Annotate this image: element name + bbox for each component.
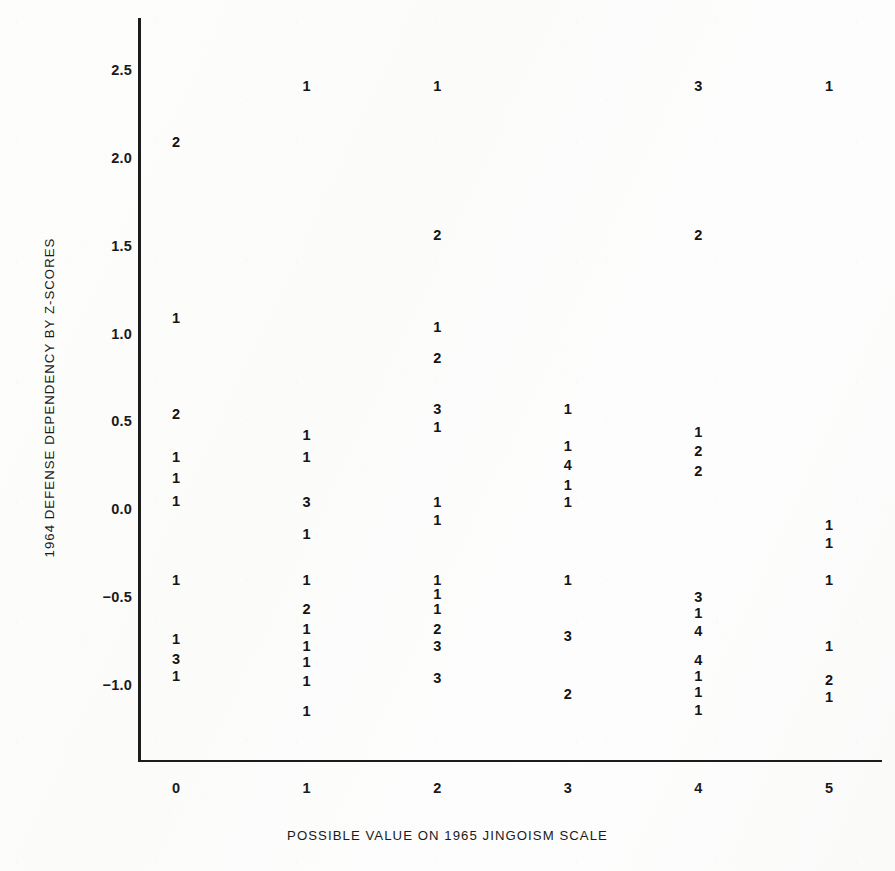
x-tick-label: 4 <box>678 780 718 796</box>
data-point-count: 1 <box>425 419 449 434</box>
data-point-count: 3 <box>556 629 580 644</box>
y-tick-label: −0.5 <box>78 589 132 605</box>
data-point-count: 3 <box>686 590 710 605</box>
y-tick-label: −1.0 <box>78 677 132 693</box>
data-point-count: 1 <box>295 527 319 542</box>
data-point-count: 2 <box>425 622 449 637</box>
y-tick-label: 0.5 <box>78 413 132 429</box>
data-point-count: 1 <box>686 669 710 684</box>
x-axis-title: POSSIBLE VALUE ON 1965 JINGOISM SCALE <box>0 828 895 843</box>
data-point-count: 1 <box>164 449 188 464</box>
data-point-count: 1 <box>295 639 319 654</box>
data-point-count: 3 <box>164 651 188 666</box>
data-point-count: 3 <box>425 402 449 417</box>
y-axis-title: 1964 DEFENSE DEPENDENCY BY Z-SCORES <box>42 163 57 633</box>
data-point-count: 1 <box>686 606 710 621</box>
x-axis-line <box>138 760 882 762</box>
data-point-count: 2 <box>556 687 580 702</box>
data-point-count: 1 <box>164 493 188 508</box>
data-point-count: 1 <box>556 439 580 454</box>
scatter-chart: 2.52.01.51.00.50.0−0.5−1.0 012345 212111… <box>0 0 895 871</box>
data-point-count: 2 <box>686 444 710 459</box>
data-point-count: 2 <box>686 463 710 478</box>
data-point-count: 1 <box>817 690 841 705</box>
data-point-count: 1 <box>295 572 319 587</box>
x-tick-label: 3 <box>548 780 588 796</box>
data-point-count: 1 <box>817 572 841 587</box>
x-tick-label: 5 <box>809 780 849 796</box>
data-point-count: 4 <box>556 458 580 473</box>
data-point-count: 1 <box>556 402 580 417</box>
data-point-count: 3 <box>425 639 449 654</box>
data-point-count: 1 <box>556 495 580 510</box>
data-point-count: 1 <box>817 639 841 654</box>
x-tick-label: 1 <box>287 780 327 796</box>
y-tick-label: 0.0 <box>78 501 132 517</box>
data-point-count: 4 <box>686 623 710 638</box>
data-point-count: 3 <box>686 79 710 94</box>
x-tick-label: 0 <box>156 780 196 796</box>
data-point-count: 1 <box>295 449 319 464</box>
data-point-count: 2 <box>295 602 319 617</box>
data-point-count: 2 <box>164 135 188 150</box>
data-point-count: 1 <box>425 495 449 510</box>
y-tick-label: 1.0 <box>78 326 132 342</box>
y-tick-label: 2.0 <box>78 150 132 166</box>
data-point-count: 1 <box>295 674 319 689</box>
data-point-count: 1 <box>425 586 449 601</box>
data-point-count: 1 <box>295 622 319 637</box>
data-point-count: 1 <box>164 669 188 684</box>
data-point-count: 3 <box>425 671 449 686</box>
data-point-count: 2 <box>817 672 841 687</box>
data-point-count: 1 <box>425 79 449 94</box>
data-point-count: 1 <box>164 572 188 587</box>
data-point-count: 4 <box>686 653 710 668</box>
data-point-count: 1 <box>295 704 319 719</box>
data-point-count: 1 <box>164 311 188 326</box>
y-tick-label: 1.5 <box>78 238 132 254</box>
data-point-count: 2 <box>164 407 188 422</box>
data-point-count: 1 <box>686 425 710 440</box>
data-point-count: 2 <box>686 228 710 243</box>
data-point-count: 1 <box>425 319 449 334</box>
data-point-count: 1 <box>686 702 710 717</box>
data-point-count: 1 <box>425 602 449 617</box>
data-point-count: 3 <box>295 495 319 510</box>
data-point-count: 2 <box>425 228 449 243</box>
data-point-count: 2 <box>425 351 449 366</box>
data-point-count: 1 <box>817 79 841 94</box>
data-point-count: 1 <box>425 513 449 528</box>
y-tick-label: 2.5 <box>78 62 132 78</box>
data-point-count: 1 <box>295 428 319 443</box>
data-point-count: 1 <box>295 79 319 94</box>
data-point-count: 1 <box>817 518 841 533</box>
data-point-count: 1 <box>686 685 710 700</box>
y-axis-line <box>138 18 141 762</box>
data-point-count: 1 <box>556 572 580 587</box>
data-point-count: 1 <box>164 470 188 485</box>
data-point-count: 1 <box>556 477 580 492</box>
data-point-count: 1 <box>295 655 319 670</box>
data-point-count: 1 <box>817 535 841 550</box>
data-point-count: 1 <box>164 632 188 647</box>
x-tick-label: 2 <box>417 780 457 796</box>
